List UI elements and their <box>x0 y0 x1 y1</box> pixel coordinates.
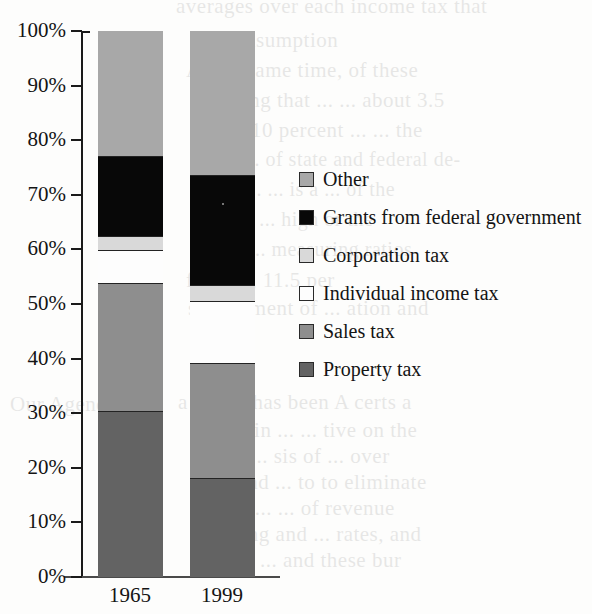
y-axis-tick-50 <box>71 303 82 305</box>
legend-item-label: Property tax <box>323 359 421 379</box>
bar-segment-1999-sales-tax[interactable] <box>190 363 255 479</box>
y-axis-tick-60 <box>71 248 82 250</box>
y-axis-tick-label-0: 0% <box>38 566 66 587</box>
bar-segment-1999-corporation-tax[interactable] <box>190 285 255 301</box>
bar-segment-1965-property-tax[interactable] <box>98 411 163 576</box>
legend-item-corporation-tax[interactable]: Corporation tax <box>299 236 581 274</box>
y-axis-tick-label-100: 100% <box>17 20 66 41</box>
y-axis-tick-label-70: 70% <box>28 184 67 205</box>
y-axis-tick-label-20: 20% <box>28 457 67 478</box>
legend-item-other[interactable]: Other <box>299 160 581 198</box>
bar-segment-1965-grants-from-federal-government[interactable] <box>98 156 163 236</box>
y-axis-tick-label-60: 60% <box>28 238 67 259</box>
bar-1999[interactable] <box>190 31 255 577</box>
legend-item-label: Other <box>323 169 369 189</box>
chart-legend: OtherGrants from federal governmentCorpo… <box>299 160 581 388</box>
y-axis-tick-90 <box>71 85 82 87</box>
legend-swatch-icon <box>299 210 314 225</box>
legend-swatch-icon <box>299 248 314 263</box>
legend-item-label: Grants from federal government <box>323 207 581 227</box>
bar-segment-1965-sales-tax[interactable] <box>98 283 163 411</box>
y-axis-tick-20 <box>71 467 82 469</box>
y-axis-tick-70 <box>71 194 82 196</box>
y-axis-tick-label-10: 10% <box>28 511 67 532</box>
y-axis-tick-label-30: 30% <box>28 402 67 423</box>
bar-segment-1999-individual-income-tax[interactable] <box>190 301 255 363</box>
y-axis-tick-10 <box>71 521 82 523</box>
legend-item-label: Corporation tax <box>323 245 449 265</box>
bar-1965[interactable] <box>98 31 163 577</box>
y-axis-tick-label-50: 50% <box>28 293 67 314</box>
x-axis-label-1999: 1999 <box>167 583 277 607</box>
y-axis-top-cap <box>81 31 90 33</box>
legend-item-property-tax[interactable]: Property tax <box>299 350 581 388</box>
legend-swatch-icon <box>299 362 314 377</box>
legend-item-label: Sales tax <box>323 321 395 341</box>
y-axis-tick-0 <box>71 576 82 578</box>
y-axis-tick-label-40: 40% <box>28 348 67 369</box>
legend-item-label: Individual income tax <box>323 283 499 303</box>
legend-item-grants-from-federal-government[interactable]: Grants from federal government <box>299 198 581 236</box>
y-axis-tick-30 <box>71 412 82 414</box>
bar-segment-1999-other[interactable] <box>190 31 255 176</box>
y-axis-tick-100 <box>71 30 82 32</box>
legend-swatch-icon <box>299 286 314 301</box>
legend-item-sales-tax[interactable]: Sales tax <box>299 312 581 350</box>
y-axis-tick-80 <box>71 139 82 141</box>
legend-swatch-icon <box>299 172 314 187</box>
y-axis-tick-label-80: 80% <box>28 129 67 150</box>
print-speck <box>222 203 224 205</box>
bar-segment-1965-corporation-tax[interactable] <box>98 236 163 250</box>
y-axis-tick-label-90: 90% <box>28 75 67 96</box>
legend-swatch-icon <box>299 324 314 339</box>
bar-segment-1965-other[interactable] <box>98 31 163 156</box>
y-axis-tick-40 <box>71 358 82 360</box>
bar-segment-1965-individual-income-tax[interactable] <box>98 250 163 283</box>
bar-segment-1999-property-tax[interactable] <box>190 478 255 576</box>
stacked-bar-chart: 0%10%20%30%40%50%60%70%80%90%100% 1965 1… <box>0 0 592 614</box>
legend-item-individual-income-tax[interactable]: Individual income tax <box>299 274 581 312</box>
bar-segment-1999-grants-from-federal-government[interactable] <box>190 175 255 284</box>
